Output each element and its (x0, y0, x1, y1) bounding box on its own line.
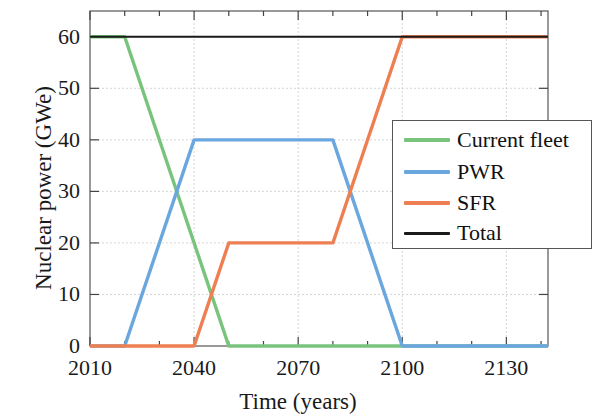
legend-swatch-sfr (404, 201, 450, 205)
legend-item-total: Total (393, 217, 593, 249)
legend-label-sfr: SFR (457, 192, 496, 214)
legend-swatch-total (404, 232, 450, 235)
legend-label-pwr: PWR (457, 161, 505, 183)
chart-figure: 0102030405060 20102040207021002130 Nucle… (0, 0, 596, 419)
legend-label-total: Total (457, 222, 502, 244)
x-tick-label: 2040 (172, 355, 216, 381)
x-axis-title: Time (years) (0, 389, 596, 415)
legend-item-sfr: SFR (393, 187, 593, 219)
y-axis-title: Nuclear power (GWe) (31, 48, 57, 328)
legend-swatch-pwr (404, 170, 450, 174)
y-tick-label: 60 (20, 24, 80, 50)
legend-swatch-current-fleet (404, 138, 450, 142)
legend-item-pwr: PWR (393, 156, 593, 188)
x-tick-label: 2070 (276, 355, 320, 381)
legend-label-current-fleet: Current fleet (457, 129, 569, 151)
x-tick-label: 2100 (380, 355, 424, 381)
x-tick-label: 2130 (484, 355, 528, 381)
x-tick-label: 2010 (68, 355, 112, 381)
legend-item-current-fleet: Current fleet (393, 124, 593, 156)
chart-legend: Current fleet PWR SFR Total (392, 120, 592, 249)
